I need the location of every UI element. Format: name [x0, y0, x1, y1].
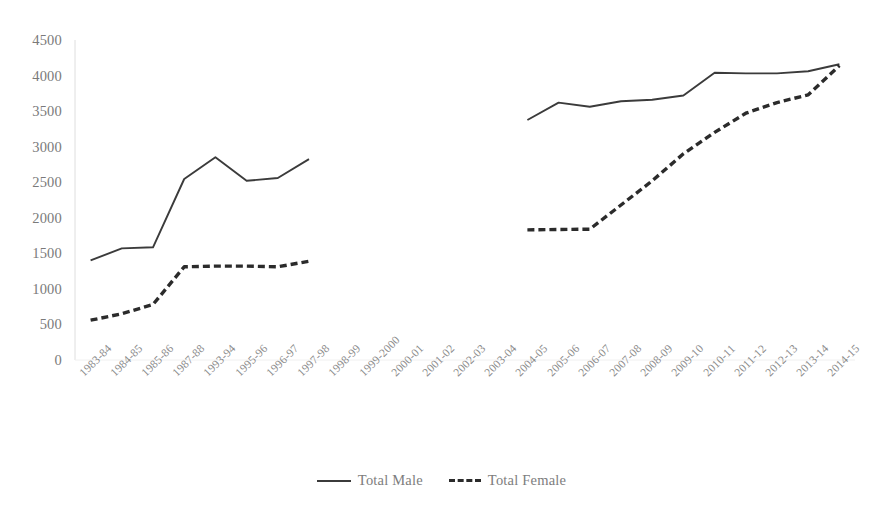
chart-legend: Total MaleTotal Female — [0, 472, 883, 489]
y-axis-tick-label: 1500 — [10, 246, 62, 261]
legend-total-male[interactable]: Total Male — [317, 472, 423, 489]
y-axis-tick-label: 3500 — [10, 104, 62, 119]
y-axis-tick-label: 2500 — [10, 175, 62, 190]
legend-total-female[interactable]: Total Female — [449, 472, 566, 489]
series-line-total-female — [527, 66, 839, 230]
axes-layer — [75, 40, 855, 360]
plot-area — [0, 0, 883, 517]
line-chart: 450040003500300025002000150010005000 198… — [0, 0, 883, 517]
y-axis-tick-label: 1000 — [10, 282, 62, 297]
y-axis-tick-label: 4500 — [10, 33, 62, 48]
series-line-total-male — [527, 64, 839, 120]
legend-label: Total Male — [358, 472, 423, 489]
y-axis-tick-label: 4000 — [10, 69, 62, 84]
solid-line-icon — [317, 480, 351, 482]
dashed-line-icon — [449, 479, 481, 482]
series-line-total-female — [91, 261, 309, 320]
y-axis-tick-label: 0 — [10, 353, 62, 368]
series-line-total-male — [91, 157, 309, 260]
y-axis-tick-label: 500 — [10, 317, 62, 332]
y-axis-tick-label: 2000 — [10, 211, 62, 226]
legend-label: Total Female — [488, 472, 566, 489]
y-axis-tick-label: 3000 — [10, 140, 62, 155]
series-layer — [91, 64, 840, 320]
